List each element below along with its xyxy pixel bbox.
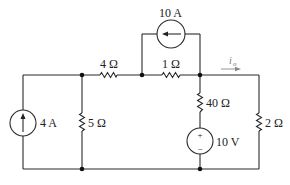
voltage-source-10v: + − 10 V — [187, 128, 240, 154]
resistor-5-ohm: 5 Ω — [80, 113, 107, 131]
circuit-diagram: 4 A 5 Ω 4 Ω 1 Ω 10 A 40 Ω + − 10 V 2 Ω — [0, 0, 290, 185]
current-source-10a: 10 A — [157, 6, 185, 48]
node-dot — [198, 73, 203, 78]
current-source-4a: 4 A — [10, 110, 57, 136]
node-dot — [198, 167, 203, 172]
node-dot — [80, 167, 85, 172]
current-symbol: i — [229, 55, 232, 66]
label-40-ohm: 40 Ω — [206, 96, 230, 110]
plus-sign: + — [197, 130, 202, 140]
node-dot — [80, 73, 85, 78]
label-5-ohm: 5 Ω — [88, 116, 106, 130]
resistor-1-ohm: 1 Ω — [162, 57, 180, 78]
current-io-indicator: i o — [221, 55, 241, 71]
label-4a: 4 A — [40, 116, 57, 130]
resistor-40-ohm: 40 Ω — [198, 93, 231, 112]
label-10v: 10 V — [216, 135, 240, 149]
label-2-ohm: 2 Ω — [265, 116, 283, 130]
node-dot — [140, 73, 145, 78]
resistor-2-ohm: 2 Ω — [257, 113, 284, 131]
resistor-4-ohm: 4 Ω — [100, 57, 118, 78]
minus-sign: − — [197, 144, 202, 154]
label-1-ohm: 1 Ω — [162, 57, 180, 71]
label-10a: 10 A — [159, 6, 182, 20]
label-4-ohm: 4 Ω — [100, 57, 118, 71]
